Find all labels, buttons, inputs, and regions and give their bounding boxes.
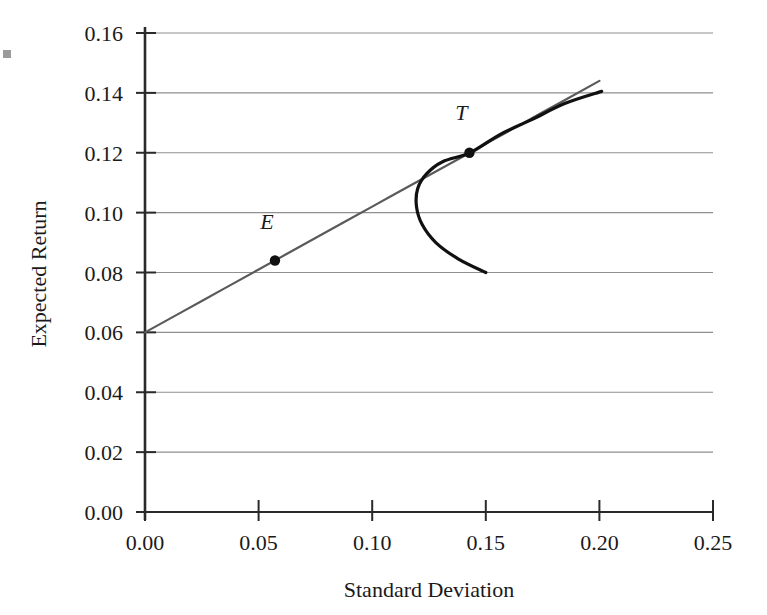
efficient-frontier-chart: ET 0.000.050.100.150.200.25 0.000.020.04… (0, 0, 767, 615)
y-axis-title: Expected Return (26, 200, 51, 347)
x-axis-tick-labels: 0.000.050.100.150.200.25 (126, 530, 733, 555)
y-tick-label: 0.16 (85, 21, 124, 46)
x-tick-label: 0.15 (467, 530, 506, 555)
y-tick-label: 0.00 (85, 500, 124, 525)
x-tick-label: 0.00 (126, 530, 165, 555)
point-label-E: E (259, 209, 274, 234)
point-label-T: T (455, 100, 469, 125)
x-tick-label: 0.05 (239, 530, 278, 555)
scan-edge-artifact (3, 50, 11, 58)
y-tick-label: 0.14 (85, 81, 124, 106)
chart-canvas: ET 0.000.050.100.150.200.25 0.000.020.04… (0, 0, 767, 615)
y-axis-tick-labels: 0.000.020.040.060.080.100.120.140.16 (85, 21, 124, 525)
y-tick-label: 0.10 (85, 201, 124, 226)
y-tick-label: 0.06 (85, 320, 124, 345)
y-tick-label: 0.02 (85, 440, 124, 465)
y-tick-label: 0.08 (85, 261, 124, 286)
data-series (145, 81, 602, 332)
gridlines (145, 33, 713, 512)
x-tick-label: 0.25 (694, 530, 733, 555)
data-points: ET (259, 100, 474, 266)
plot-axes (145, 27, 713, 520)
x-axis-title: Standard Deviation (344, 577, 514, 602)
y-tick-label: 0.12 (85, 141, 124, 166)
x-axis-ticks (145, 500, 713, 521)
x-tick-label: 0.20 (580, 530, 619, 555)
x-tick-label: 0.10 (353, 530, 392, 555)
y-tick-label: 0.04 (85, 380, 124, 405)
